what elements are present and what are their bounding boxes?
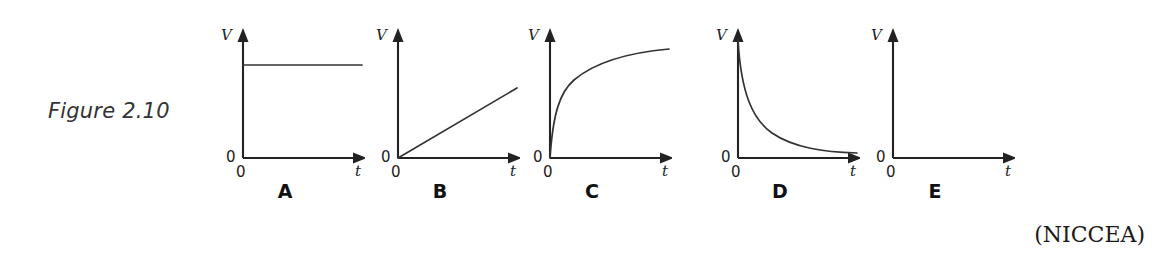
curve-d xyxy=(738,40,857,153)
curve-c xyxy=(550,49,669,158)
y-axis-arrowhead xyxy=(888,28,899,42)
graph-panel-c: V t 0 0 C xyxy=(512,18,672,208)
graph-b-plot: V t 0 0 xyxy=(360,18,520,178)
panel-letter-b: B xyxy=(360,180,520,202)
graph-a-plot: V t 0 0 xyxy=(205,18,365,178)
y-axis-label: V xyxy=(716,26,729,44)
origin-label-x: 0 xyxy=(236,163,246,178)
origin-label-y: 0 xyxy=(226,148,236,166)
x-axis-label: t xyxy=(1005,162,1012,178)
graph-panel-a: V t 0 0 A xyxy=(205,18,365,208)
y-axis-label: V xyxy=(221,26,234,44)
graph-panel-d: V t 0 0 D xyxy=(700,18,860,208)
origin-label-y: 0 xyxy=(876,148,886,166)
y-axis-arrowhead xyxy=(545,28,556,42)
graph-panel-e: V t 0 0 E xyxy=(855,18,1015,208)
origin-label-x: 0 xyxy=(543,163,553,178)
origin-label-x: 0 xyxy=(886,163,896,178)
curve-b xyxy=(398,88,517,158)
origin-label-y: 0 xyxy=(533,148,543,166)
origin-label-x: 0 xyxy=(731,163,741,178)
y-axis-label: V xyxy=(871,26,884,44)
y-axis-arrowhead xyxy=(238,28,249,42)
figure-caption: Figure 2.10 xyxy=(48,99,170,123)
source-credit: (NICCEA) xyxy=(1034,222,1145,247)
origin-label-y: 0 xyxy=(721,148,731,166)
panel-letter-e: E xyxy=(855,180,1015,202)
graph-panel-b: V t 0 0 B xyxy=(360,18,520,208)
panel-letter-a: A xyxy=(205,180,365,202)
y-axis-label: V xyxy=(528,26,541,44)
origin-label-y: 0 xyxy=(381,148,391,166)
y-axis-arrowhead xyxy=(393,28,404,42)
graph-c-plot: V t 0 0 xyxy=(512,18,672,178)
graph-d-plot: V t 0 0 xyxy=(700,18,860,178)
figure-2-10: Figure 2.10 V t 0 0 A V xyxy=(0,0,1165,271)
panel-letter-d: D xyxy=(700,180,860,202)
y-axis-label: V xyxy=(376,26,389,44)
panel-letter-c: C xyxy=(512,180,672,202)
x-axis-label: t xyxy=(662,162,669,178)
graph-e-plot: V t 0 0 xyxy=(855,18,1015,178)
origin-label-x: 0 xyxy=(391,163,401,178)
